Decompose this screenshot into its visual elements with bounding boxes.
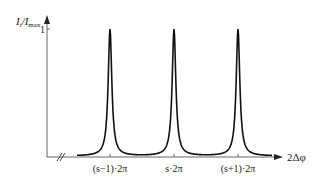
- y-tick-label-1: 1: [40, 24, 45, 35]
- x-tick-label-2: (s+1)·2π: [221, 163, 256, 175]
- x-axis-label: 2Δφ: [287, 151, 306, 163]
- x-tick-label-0: (s−1)·2π: [93, 163, 128, 175]
- x-axis-arrow-icon: [274, 154, 283, 160]
- transmission-curve: [77, 29, 272, 155]
- y-axis-label: It/Imax: [15, 15, 41, 29]
- chart: 1 It/Imax 2Δφ (s−1)·2π s·2π (s+1)·2π: [0, 0, 318, 181]
- y-axis-arrow-icon: [44, 15, 50, 24]
- x-tick-label-1: s·2π: [165, 163, 182, 174]
